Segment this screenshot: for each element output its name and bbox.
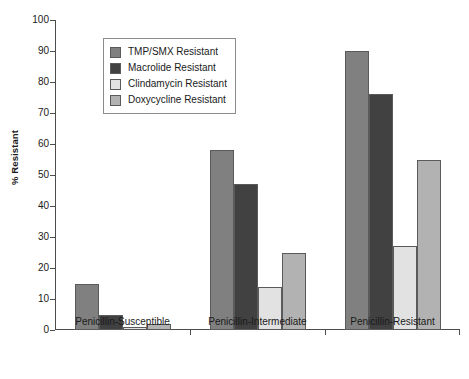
- y-axis-tick-label: 40: [23, 201, 49, 211]
- y-axis-tick-label: 80: [23, 77, 49, 87]
- legend-item: Doxycycline Resistant: [110, 92, 227, 108]
- legend-label: Macrolide Resistant: [128, 63, 216, 73]
- y-axis-tick-label: 60: [23, 139, 49, 149]
- x-axis-group-label: Penicillin-Resistant: [325, 316, 460, 327]
- y-axis-tick: [50, 268, 55, 269]
- y-axis-tick-label: 0: [23, 325, 49, 335]
- legend-item: Clindamycin Resistant: [110, 76, 227, 92]
- legend: TMP/SMX ResistantMacrolide ResistantClin…: [103, 38, 236, 114]
- bar-chart: % Resistant 0102030405060708090100 Penic…: [0, 0, 469, 379]
- legend-swatch-icon: [110, 79, 121, 90]
- legend-item: TMP/SMX Resistant: [110, 44, 227, 60]
- bar: [123, 327, 147, 330]
- bar: [234, 184, 258, 330]
- y-axis-tick-label: 70: [23, 108, 49, 118]
- x-axis-group-label: Penicillin-Intermediate: [190, 316, 325, 327]
- legend-swatch-icon: [110, 63, 121, 74]
- x-axis-tick: [325, 330, 326, 335]
- y-axis-tick-labels: 0102030405060708090100: [22, 0, 49, 379]
- y-axis-tick-label: 30: [23, 232, 49, 242]
- y-axis-tick-label: 100: [23, 15, 49, 25]
- y-axis-tick: [50, 206, 55, 207]
- y-axis-tick-label: 10: [23, 294, 49, 304]
- bar: [369, 94, 393, 330]
- y-axis-tick: [50, 20, 55, 21]
- y-axis-line: [55, 20, 56, 330]
- y-axis-tick-label: 90: [23, 46, 49, 56]
- y-axis-label: % Resistant: [9, 113, 20, 203]
- y-axis-tick: [50, 175, 55, 176]
- y-axis-tick: [50, 144, 55, 145]
- legend-swatch-icon: [110, 95, 121, 106]
- y-axis-tick-label: 20: [23, 263, 49, 273]
- bar: [210, 150, 234, 330]
- x-axis-group-label: Penicillin-Susceptible: [55, 316, 190, 327]
- y-axis-tick: [50, 299, 55, 300]
- y-axis-tick: [50, 113, 55, 114]
- y-axis-tick: [50, 82, 55, 83]
- legend-label: Clindamycin Resistant: [128, 79, 227, 89]
- y-axis-tick: [50, 330, 55, 331]
- y-axis-tick-label: 50: [23, 170, 49, 180]
- bar: [417, 160, 441, 331]
- legend-label: TMP/SMX Resistant: [128, 47, 218, 57]
- legend-swatch-icon: [110, 47, 121, 58]
- bar: [345, 51, 369, 330]
- x-axis-tick: [190, 330, 191, 335]
- y-axis-tick: [50, 237, 55, 238]
- legend-item: Macrolide Resistant: [110, 60, 227, 76]
- y-axis-tick: [50, 51, 55, 52]
- legend-label: Doxycycline Resistant: [128, 95, 226, 105]
- x-axis-tick: [459, 330, 460, 335]
